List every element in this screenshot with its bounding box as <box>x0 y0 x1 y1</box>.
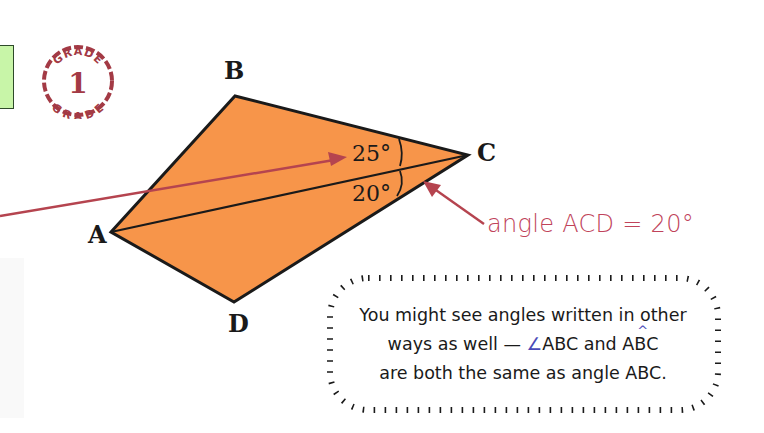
tip-box: You might see angles written in other wa… <box>338 284 708 404</box>
tip-line-3: are both the same as angle ABC. <box>379 359 667 388</box>
annotation-arrow-line <box>433 188 484 224</box>
angle-label-20: 20° <box>352 181 391 206</box>
angle-acd-annotation: angle ACD = 20° <box>487 210 694 238</box>
vertex-label-d: D <box>228 309 249 338</box>
angle-symbol: ∠ <box>527 334 543 354</box>
arrowhead-icon <box>423 181 441 197</box>
tip-line-2-mid: ABC and A <box>542 334 634 354</box>
vertex-label-c: C <box>477 138 496 167</box>
vertex-label-a: A <box>88 220 107 249</box>
angle-label-25: 25° <box>352 141 391 166</box>
hat-letter-b: B <box>634 330 646 359</box>
tip-line-2-pre: ways as well — <box>388 334 527 354</box>
tip-line-2: ways as well — ∠ABC and ABC <box>388 330 659 359</box>
kite-shape <box>111 96 468 302</box>
vertex-label-b: B <box>224 56 244 85</box>
